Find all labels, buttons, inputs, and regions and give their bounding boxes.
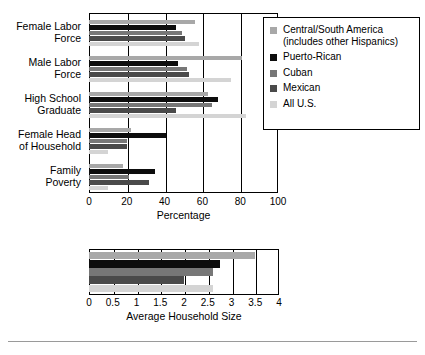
bar bbox=[89, 260, 220, 267]
bar bbox=[89, 133, 166, 138]
legend-item-label: Central/South America (includes other Hi… bbox=[283, 24, 398, 47]
bar bbox=[89, 175, 129, 180]
household-size-chart-x-axis: 00.511.522.533.54 bbox=[0, 297, 425, 311]
bar bbox=[89, 285, 213, 292]
legend-item-label: Puerto-Rican bbox=[283, 51, 341, 63]
x-tick-label: 100 bbox=[270, 196, 287, 207]
bar bbox=[89, 25, 176, 30]
x-tick-label: 4 bbox=[276, 297, 282, 308]
percentage-chart-category-labels: Female Labor ForceMale Labor ForceHigh S… bbox=[0, 13, 86, 193]
legend-swatch-icon bbox=[270, 70, 277, 77]
bar bbox=[89, 139, 127, 144]
category-label: Female Head of Household bbox=[0, 129, 81, 152]
household-size-chart-plot-area bbox=[89, 249, 279, 295]
x-tick-label: 3.5 bbox=[248, 297, 262, 308]
legend-item: Mexican bbox=[270, 82, 419, 94]
legend-item: Central/South America (includes other Hi… bbox=[270, 24, 419, 47]
legend-swatch-icon bbox=[270, 54, 277, 61]
bar bbox=[89, 276, 184, 283]
x-tick-label: 3 bbox=[229, 297, 235, 308]
bar bbox=[89, 61, 178, 66]
bar bbox=[89, 67, 187, 72]
footer-divider bbox=[8, 341, 417, 342]
bar bbox=[89, 128, 131, 133]
x-tick-label: 0 bbox=[86, 297, 92, 308]
x-tick-label: 0.5 bbox=[106, 297, 120, 308]
category-label: Family Poverty bbox=[0, 165, 81, 188]
category-label: High School Graduate bbox=[0, 93, 81, 116]
bar bbox=[89, 150, 108, 155]
bar bbox=[89, 72, 189, 77]
bar bbox=[89, 169, 155, 174]
x-tick-label: 60 bbox=[197, 196, 208, 207]
legend-item: Cuban bbox=[270, 67, 419, 79]
bar bbox=[89, 186, 108, 191]
bar bbox=[89, 78, 231, 83]
bar bbox=[89, 268, 213, 275]
percentage-chart-x-axis-title: Percentage bbox=[157, 209, 211, 221]
percentage-chart-x-axis: 020406080100 bbox=[0, 196, 425, 210]
bar bbox=[89, 108, 176, 113]
x-tick-label: 1.5 bbox=[153, 297, 167, 308]
bar bbox=[89, 180, 149, 185]
legend: Central/South America (includes other Hi… bbox=[263, 17, 420, 130]
x-tick-label: 2 bbox=[181, 297, 187, 308]
legend-swatch-icon bbox=[270, 27, 277, 34]
legend-item: Puerto-Rican bbox=[270, 51, 419, 63]
category-label: Female Labor Force bbox=[0, 21, 81, 44]
x-tick-label: 2.5 bbox=[201, 297, 215, 308]
bar bbox=[89, 36, 185, 41]
household-size-chart-x-axis-title: Average Household Size bbox=[126, 310, 241, 322]
x-tick-label: 0 bbox=[86, 196, 92, 207]
bar bbox=[89, 103, 212, 108]
percentage-chart-plot-area bbox=[89, 13, 278, 193]
bar bbox=[89, 42, 199, 47]
bar bbox=[89, 164, 123, 169]
legend-item: All U.S. bbox=[270, 98, 419, 110]
bar bbox=[89, 56, 242, 61]
legend-swatch-icon bbox=[270, 101, 277, 108]
legend-item-label: Mexican bbox=[283, 82, 320, 94]
figure: Female Labor ForceMale Labor ForceHigh S… bbox=[0, 0, 425, 355]
legend-swatch-icon bbox=[270, 85, 277, 92]
x-tick-label: 80 bbox=[235, 196, 246, 207]
bar bbox=[89, 20, 195, 25]
legend-item-label: Cuban bbox=[283, 67, 312, 79]
bar bbox=[89, 252, 255, 259]
x-tick-label: 1 bbox=[134, 297, 140, 308]
x-tick-label: 40 bbox=[159, 196, 170, 207]
category-label: Male Labor Force bbox=[0, 57, 81, 80]
bar bbox=[89, 92, 208, 97]
legend-item-label: All U.S. bbox=[283, 98, 316, 110]
bar bbox=[89, 97, 218, 102]
x-tick-label: 20 bbox=[121, 196, 132, 207]
bar bbox=[89, 31, 182, 36]
bar bbox=[89, 144, 127, 149]
bar bbox=[89, 114, 246, 119]
